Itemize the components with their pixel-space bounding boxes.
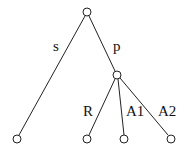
edge-a1 — [118, 79, 124, 135]
node-leaf-2 — [83, 135, 91, 143]
edge-label-a1: A1 — [126, 103, 144, 119]
edge-label-a2: A2 — [158, 103, 176, 119]
edge-label-p: p — [113, 38, 121, 54]
tree-diagram: s p R A1 A2 — [0, 0, 187, 152]
node-mid — [113, 71, 121, 79]
node-leaf-1 — [13, 135, 21, 143]
edge-label-s: s — [53, 38, 59, 54]
edge-s — [19, 16, 85, 135]
node-leaf-4 — [167, 135, 175, 143]
node-root — [83, 8, 91, 16]
edge-p — [89, 16, 115, 71]
edge-label-r: R — [83, 103, 93, 119]
node-leaf-3 — [120, 135, 128, 143]
